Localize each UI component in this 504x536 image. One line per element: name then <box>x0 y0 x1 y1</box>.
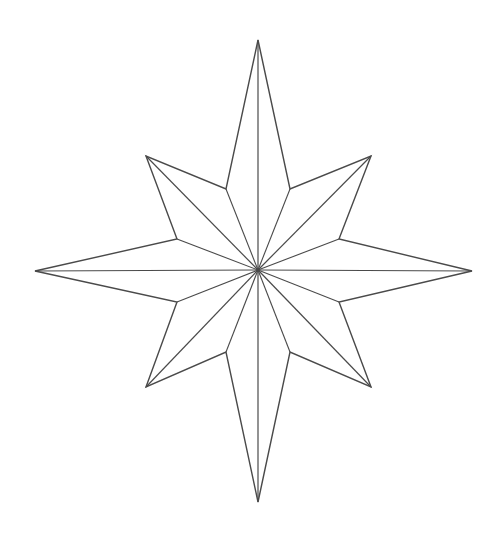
ray-to-point-line <box>258 270 472 271</box>
ray-to-point-line <box>258 156 371 270</box>
ray-to-valley-line <box>226 189 258 270</box>
ray-to-point-line <box>146 156 258 270</box>
compass-star-icon <box>0 0 504 536</box>
ray-to-valley-line <box>258 189 290 270</box>
ray-to-point-line <box>258 270 371 387</box>
ray-to-valley-line <box>258 270 290 352</box>
ray-to-point-line <box>146 270 258 387</box>
star-drawing-canvas <box>0 0 504 536</box>
ray-to-point-line <box>35 270 258 271</box>
ray-to-valley-line <box>226 270 258 352</box>
ray-to-valley-line <box>258 270 339 302</box>
star-facet-lines <box>35 40 472 502</box>
ray-to-valley-line <box>177 239 258 270</box>
ray-to-valley-line <box>177 270 258 302</box>
ray-to-valley-line <box>258 239 339 270</box>
